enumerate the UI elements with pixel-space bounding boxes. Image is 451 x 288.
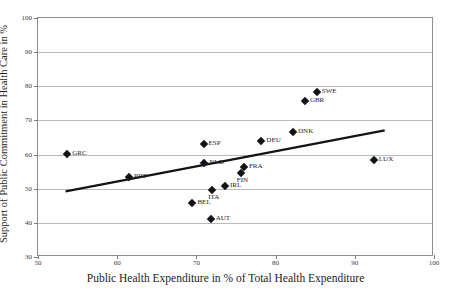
trendline bbox=[38, 18, 432, 255]
data-point-label: NLD bbox=[209, 158, 223, 166]
y-tick-label: 30 bbox=[25, 253, 32, 261]
data-point-label: FIN bbox=[237, 176, 248, 184]
y-tick-label: 50 bbox=[25, 185, 32, 193]
x-tick-label: 80 bbox=[272, 259, 279, 267]
data-point-label: FRA bbox=[249, 162, 263, 170]
data-point-label: LUX bbox=[379, 155, 393, 163]
data-point-label: PRT bbox=[134, 172, 146, 180]
y-axis-title: Support of Public Commitment in Health C… bbox=[0, 18, 9, 250]
y-tick-label: 40 bbox=[25, 219, 32, 227]
data-point-label: AUT bbox=[216, 214, 230, 222]
x-tick-label: 70 bbox=[193, 259, 200, 267]
y-tick-label: 90 bbox=[25, 48, 32, 56]
x-tick-label: 50 bbox=[35, 259, 42, 267]
chart-page: Support of Public Commitment in Health C… bbox=[0, 0, 451, 288]
x-axis-title: Public Health Expenditure in % of Total … bbox=[0, 272, 451, 284]
data-point-label: SWE bbox=[322, 87, 337, 95]
y-tick-label: 80 bbox=[25, 82, 32, 90]
x-tick-label: 60 bbox=[114, 259, 121, 267]
data-point-label: ESP bbox=[209, 139, 221, 147]
plot-area: 30405060708090100 5060708090100 GRCPRTBE… bbox=[37, 17, 433, 256]
x-tick-label: 100 bbox=[429, 259, 440, 267]
y-tick-label: 70 bbox=[25, 116, 32, 124]
data-point-label: ITA bbox=[208, 193, 219, 201]
data-point-label: GBR bbox=[310, 96, 324, 104]
cut-off-title bbox=[0, 0, 451, 5]
data-point-label: DNK bbox=[298, 127, 313, 135]
y-tick-label: 100 bbox=[22, 14, 33, 22]
x-tick-label: 90 bbox=[351, 259, 358, 267]
y-tick-label: 60 bbox=[25, 151, 32, 159]
data-point-label: GRC bbox=[72, 149, 86, 157]
data-point-label: DEU bbox=[266, 136, 280, 144]
